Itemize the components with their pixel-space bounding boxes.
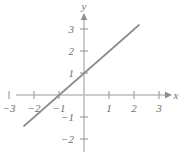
x-tick-label--3: −3 [3,102,16,114]
graph-canvas: −3 −2 −1 1 2 3 3 2 1 −1 −2 x y [0,0,185,162]
x-axis-arrow-icon [165,92,172,99]
y-tick-label--1: −1 [61,111,74,123]
y-axis-arrow-icon [81,13,88,20]
x-axis-label: x [173,89,179,101]
x-tick-label-3: 3 [155,102,162,114]
y-axis-label: y [81,0,87,12]
x-tick-label-1: 1 [106,102,112,114]
y-tick-label-1: 1 [69,67,75,79]
coordinate-plane-graph: −3 −2 −1 1 2 3 3 2 1 −1 −2 x y [0,0,185,162]
y-tick-label-2: 2 [69,45,75,57]
x-tick-label--2: −2 [28,102,41,114]
plotted-line-y-equals-x-plus-1 [24,25,139,126]
y-tick-label-3: 3 [68,23,75,35]
y-tick-label--2: −2 [61,133,74,145]
x-tick-label-2: 2 [131,102,137,114]
